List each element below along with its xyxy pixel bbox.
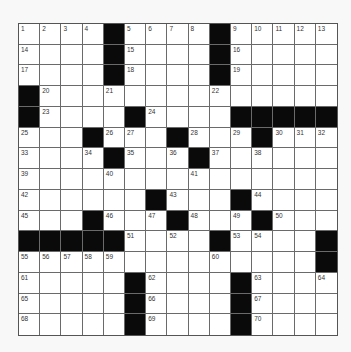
grid-cell[interactable]	[210, 294, 231, 315]
grid-cell[interactable]	[252, 252, 273, 273]
grid-cell[interactable]	[167, 294, 188, 315]
grid-cell[interactable]	[61, 107, 82, 128]
grid-cell[interactable]: 47	[146, 211, 167, 232]
grid-cell[interactable]	[40, 294, 61, 315]
grid-cell[interactable]	[104, 273, 125, 294]
grid-cell[interactable]: 56	[40, 252, 61, 273]
grid-cell[interactable]	[125, 169, 146, 190]
grid-cell[interactable]	[316, 190, 337, 211]
grid-cell[interactable]	[316, 45, 337, 66]
grid-cell[interactable]	[273, 190, 294, 211]
grid-cell[interactable]	[40, 211, 61, 232]
grid-cell[interactable]: 28	[189, 128, 210, 149]
grid-cell[interactable]	[125, 211, 146, 232]
grid-cell[interactable]: 5	[125, 24, 146, 45]
grid-cell[interactable]	[210, 273, 231, 294]
grid-cell[interactable]	[295, 148, 316, 169]
grid-cell[interactable]	[273, 169, 294, 190]
grid-cell[interactable]	[316, 294, 337, 315]
grid-cell[interactable]	[167, 273, 188, 294]
grid-cell[interactable]: 58	[83, 252, 104, 273]
grid-cell[interactable]	[189, 107, 210, 128]
grid-cell[interactable]	[61, 169, 82, 190]
grid-cell[interactable]	[189, 190, 210, 211]
grid-cell[interactable]	[61, 86, 82, 107]
grid-cell[interactable]	[146, 86, 167, 107]
grid-cell[interactable]: 52	[167, 231, 188, 252]
grid-cell[interactable]	[104, 190, 125, 211]
grid-cell[interactable]: 35	[125, 148, 146, 169]
grid-cell[interactable]	[231, 169, 252, 190]
grid-cell[interactable]	[273, 314, 294, 335]
grid-cell[interactable]: 68	[19, 314, 40, 335]
grid-cell[interactable]	[273, 231, 294, 252]
grid-cell[interactable]	[231, 86, 252, 107]
grid-cell[interactable]: 36	[167, 148, 188, 169]
grid-cell[interactable]	[189, 86, 210, 107]
grid-cell[interactable]	[295, 190, 316, 211]
grid-cell[interactable]	[316, 65, 337, 86]
grid-cell[interactable]	[316, 314, 337, 335]
grid-cell[interactable]: 21	[104, 86, 125, 107]
grid-cell[interactable]	[167, 86, 188, 107]
grid-cell[interactable]	[316, 169, 337, 190]
grid-cell[interactable]	[83, 169, 104, 190]
grid-cell[interactable]	[210, 190, 231, 211]
grid-cell[interactable]: 1	[19, 24, 40, 45]
grid-cell[interactable]	[295, 65, 316, 86]
grid-cell[interactable]: 39	[19, 169, 40, 190]
grid-cell[interactable]	[210, 211, 231, 232]
grid-cell[interactable]	[61, 45, 82, 66]
grid-cell[interactable]: 22	[210, 86, 231, 107]
grid-cell[interactable]	[146, 148, 167, 169]
grid-cell[interactable]	[40, 273, 61, 294]
grid-cell[interactable]	[167, 65, 188, 86]
grid-cell[interactable]	[125, 252, 146, 273]
grid-cell[interactable]: 19	[231, 65, 252, 86]
grid-cell[interactable]	[83, 190, 104, 211]
grid-cell[interactable]: 69	[146, 314, 167, 335]
grid-cell[interactable]	[61, 65, 82, 86]
grid-cell[interactable]	[83, 65, 104, 86]
grid-cell[interactable]	[125, 190, 146, 211]
grid-cell[interactable]: 65	[19, 294, 40, 315]
grid-cell[interactable]: 13	[316, 24, 337, 45]
grid-cell[interactable]: 23	[40, 107, 61, 128]
grid-cell[interactable]	[295, 211, 316, 232]
grid-cell[interactable]	[167, 252, 188, 273]
grid-cell[interactable]	[210, 169, 231, 190]
grid-cell[interactable]: 4	[83, 24, 104, 45]
grid-cell[interactable]	[189, 294, 210, 315]
grid-cell[interactable]: 60	[210, 252, 231, 273]
grid-cell[interactable]	[189, 273, 210, 294]
grid-cell[interactable]	[189, 231, 210, 252]
grid-cell[interactable]	[61, 190, 82, 211]
grid-cell[interactable]	[316, 86, 337, 107]
grid-cell[interactable]	[273, 65, 294, 86]
grid-cell[interactable]: 9	[231, 24, 252, 45]
grid-cell[interactable]: 59	[104, 252, 125, 273]
grid-cell[interactable]: 7	[167, 24, 188, 45]
grid-cell[interactable]	[295, 294, 316, 315]
grid-cell[interactable]	[210, 128, 231, 149]
grid-cell[interactable]: 50	[273, 211, 294, 232]
grid-cell[interactable]	[252, 45, 273, 66]
grid-cell[interactable]	[83, 273, 104, 294]
grid-cell[interactable]: 10	[252, 24, 273, 45]
grid-cell[interactable]	[189, 314, 210, 335]
grid-cell[interactable]	[40, 65, 61, 86]
grid-cell[interactable]: 12	[295, 24, 316, 45]
grid-cell[interactable]: 61	[19, 273, 40, 294]
grid-cell[interactable]: 51	[125, 231, 146, 252]
grid-cell[interactable]	[189, 65, 210, 86]
grid-cell[interactable]: 29	[231, 128, 252, 149]
grid-cell[interactable]: 37	[210, 148, 231, 169]
grid-cell[interactable]: 53	[231, 231, 252, 252]
grid-cell[interactable]	[146, 128, 167, 149]
grid-cell[interactable]	[104, 107, 125, 128]
grid-cell[interactable]	[83, 107, 104, 128]
grid-cell[interactable]	[146, 65, 167, 86]
grid-cell[interactable]	[83, 86, 104, 107]
grid-cell[interactable]	[40, 128, 61, 149]
grid-cell[interactable]	[61, 148, 82, 169]
